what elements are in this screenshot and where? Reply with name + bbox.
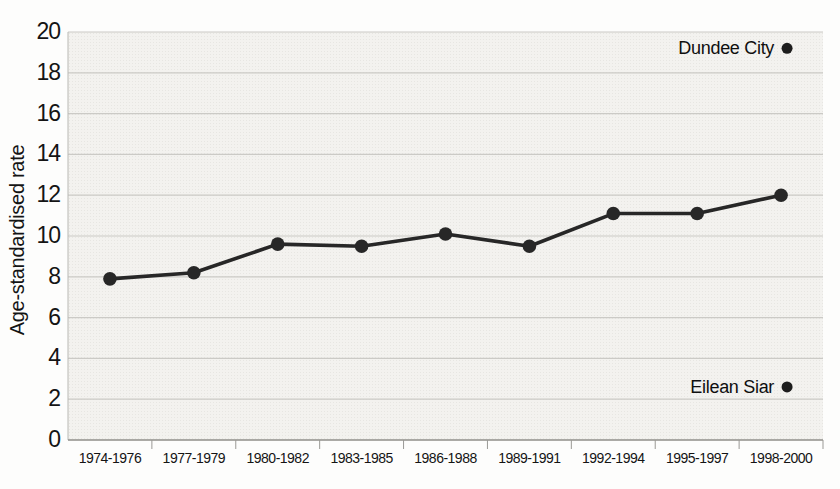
data-point — [774, 188, 788, 202]
x-tick-label: 1980-1982 — [246, 451, 308, 465]
x-tick-label: 1977-1979 — [163, 451, 225, 465]
data-point — [271, 237, 285, 251]
x-tick-label: 1995-1997 — [666, 451, 728, 465]
data-point — [439, 227, 453, 241]
data-point — [187, 266, 201, 280]
y-tick-label: 20 — [0, 20, 60, 43]
y-tick-label: 8 — [0, 265, 60, 288]
y-tick-label: 14 — [0, 142, 60, 165]
x-tick-label: 1974-1976 — [79, 451, 141, 465]
x-tick-label: 1998-2000 — [750, 451, 812, 465]
x-tick-label: 1983-1985 — [330, 451, 392, 465]
annotation-label: Dundee City — [678, 39, 774, 57]
data-point — [690, 207, 704, 221]
annotation-marker — [782, 43, 793, 54]
x-tick-label: 1989-1991 — [498, 451, 560, 465]
y-tick-label: 0 — [0, 428, 60, 451]
chart-canvas — [0, 0, 840, 489]
chart-page: { "chart_data": { "type": "line", "ylabe… — [0, 0, 840, 489]
data-point — [103, 272, 117, 286]
data-point — [523, 239, 537, 253]
line-chart: Age-standardised rate 02468101214161820 … — [0, 0, 840, 489]
y-tick-label: 4 — [0, 346, 60, 369]
data-point — [606, 207, 620, 221]
x-tick-label: 1986-1988 — [414, 451, 476, 465]
annotation-label: Eilean Siar — [690, 378, 774, 396]
x-tick-label: 1992-1994 — [582, 451, 644, 465]
annotation-marker — [782, 381, 793, 392]
y-tick-label: 10 — [0, 224, 60, 247]
y-tick-label: 2 — [0, 387, 60, 410]
data-point — [355, 239, 369, 253]
y-tick-label: 18 — [0, 61, 60, 84]
y-tick-label: 12 — [0, 183, 60, 206]
y-tick-label: 16 — [0, 102, 60, 125]
y-tick-label: 6 — [0, 306, 60, 329]
